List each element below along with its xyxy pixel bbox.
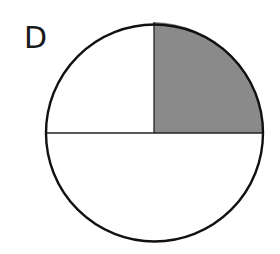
fraction-circle — [0, 0, 280, 254]
